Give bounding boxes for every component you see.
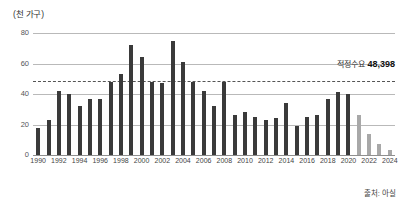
bar-2019 xyxy=(336,92,340,155)
bar-2012 xyxy=(264,120,268,155)
bar-1994 xyxy=(78,106,82,155)
bar-2008 xyxy=(222,82,226,155)
bar-1995 xyxy=(88,99,92,155)
bar-2007 xyxy=(212,106,216,155)
y-tick-label-40: 40 xyxy=(5,90,29,98)
x-tick-label-2004: 2004 xyxy=(175,157,191,164)
x-tick-label-2022: 2022 xyxy=(361,157,377,164)
bar-2009 xyxy=(233,115,237,155)
x-tick-label-1990: 1990 xyxy=(30,157,46,164)
bar-1999 xyxy=(129,45,133,155)
threshold-value: 48,398 xyxy=(367,59,395,69)
y-tick-label-0: 0 xyxy=(5,151,29,159)
bar-2014 xyxy=(284,103,288,155)
bar-2013 xyxy=(274,118,278,155)
x-tick-label-2014: 2014 xyxy=(279,157,295,164)
bar-2015 xyxy=(295,126,299,155)
bar-2003 xyxy=(171,41,175,155)
bar-2017 xyxy=(315,115,319,155)
chart-container: (천 가구) 020406080 19901992199419961998200… xyxy=(0,0,409,205)
bar-1991 xyxy=(47,120,51,155)
bar-2024 xyxy=(388,150,392,155)
bar-1993 xyxy=(67,94,71,155)
bar-2000 xyxy=(140,57,144,155)
bar-1998 xyxy=(119,74,123,155)
bar-2022 xyxy=(367,134,371,155)
bar-2005 xyxy=(191,82,195,155)
bar-series xyxy=(33,33,395,155)
x-tick-label-1992: 1992 xyxy=(51,157,67,164)
x-tick-label-2024: 2024 xyxy=(382,157,398,164)
gridline-0 xyxy=(33,155,395,156)
y-tick-label-20: 20 xyxy=(5,121,29,129)
bar-1990 xyxy=(36,128,40,155)
bar-2016 xyxy=(305,117,309,155)
bar-2004 xyxy=(181,62,185,155)
x-tick-label-2006: 2006 xyxy=(196,157,212,164)
y-axis-unit-label: (천 가구) xyxy=(13,7,44,19)
y-tick-label-60: 60 xyxy=(5,60,29,68)
bar-1996 xyxy=(98,99,102,155)
x-tick-label-2018: 2018 xyxy=(320,157,336,164)
bar-1992 xyxy=(57,91,61,155)
source-note: 출처: 아실 xyxy=(364,187,396,198)
x-tick-label-2000: 2000 xyxy=(134,157,150,164)
plot-area xyxy=(33,33,395,155)
bar-2011 xyxy=(253,117,257,155)
bar-1997 xyxy=(109,82,113,155)
x-tick-label-1996: 1996 xyxy=(92,157,108,164)
x-tick-label-2012: 2012 xyxy=(258,157,274,164)
x-axis: 1990199219941996199820002002200420062008… xyxy=(33,157,395,171)
x-tick-label-1998: 1998 xyxy=(113,157,129,164)
x-tick-label-2020: 2020 xyxy=(341,157,357,164)
x-tick-label-2010: 2010 xyxy=(237,157,253,164)
bar-2021 xyxy=(357,115,361,155)
bar-2001 xyxy=(150,82,154,155)
bar-2002 xyxy=(160,83,164,155)
threshold-annotation: 적정수요 48,398 xyxy=(337,60,395,69)
bar-2010 xyxy=(243,112,247,155)
y-tick-label-80: 80 xyxy=(5,29,29,37)
x-tick-label-2016: 2016 xyxy=(299,157,315,164)
bar-2020 xyxy=(346,94,350,155)
x-tick-label-2002: 2002 xyxy=(154,157,170,164)
y-axis: 020406080 xyxy=(4,33,29,155)
bar-2006 xyxy=(202,91,206,155)
bar-2018 xyxy=(326,99,330,155)
threshold-label: 적정수요 xyxy=(337,60,365,69)
bar-2023 xyxy=(377,144,381,155)
x-tick-label-2008: 2008 xyxy=(217,157,233,164)
x-tick-label-1994: 1994 xyxy=(72,157,88,164)
